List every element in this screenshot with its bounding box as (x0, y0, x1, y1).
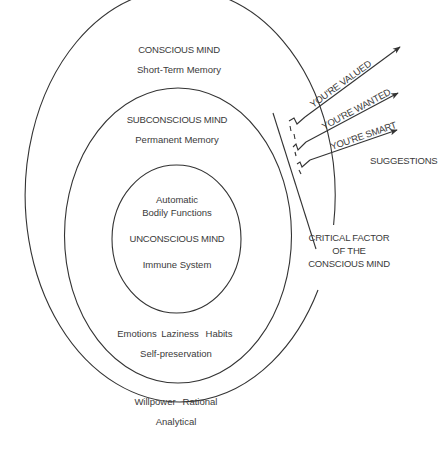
trait-emotions: Emotions (117, 328, 157, 339)
subconscious-mind-subtitle: Permanent Memory (135, 134, 219, 145)
unconscious-mind-title: UNCONSCIOUS MIND (130, 233, 225, 244)
subconscious-mind-title: SUBCONSCIOUS MIND (127, 114, 228, 125)
critical-factor-line (273, 113, 316, 249)
critical-factor-line1: CRITICAL FACTOR (309, 232, 390, 243)
trait-rational: Rational (183, 396, 218, 407)
inner-line-bodily-functions: Bodily Functions (142, 207, 212, 218)
trait-willpower: Willpower (134, 396, 175, 407)
critical-factor-line2: OF THE (332, 245, 365, 256)
conscious-mind-subtitle: Short-Term Memory (137, 64, 221, 75)
mind-model-diagram: YOU'RE VALUED YOU'RE WANTED YOU'RE SMART… (0, 0, 443, 469)
trait-analytical: Analytical (156, 416, 197, 427)
suggestions-label: SUGGESTIONS (370, 155, 437, 166)
critical-factor-line3: CONSCIOUS MIND (308, 258, 390, 269)
conscious-mind-title: CONSCIOUS MIND (138, 44, 220, 55)
inner-line-automatic: Automatic (156, 194, 198, 205)
trait-self-preservation: Self-preservation (140, 348, 212, 359)
trait-laziness: Laziness (161, 328, 199, 339)
trait-habits: Habits (206, 328, 233, 339)
unconscious-mind-subtitle: Immune System (143, 259, 212, 270)
